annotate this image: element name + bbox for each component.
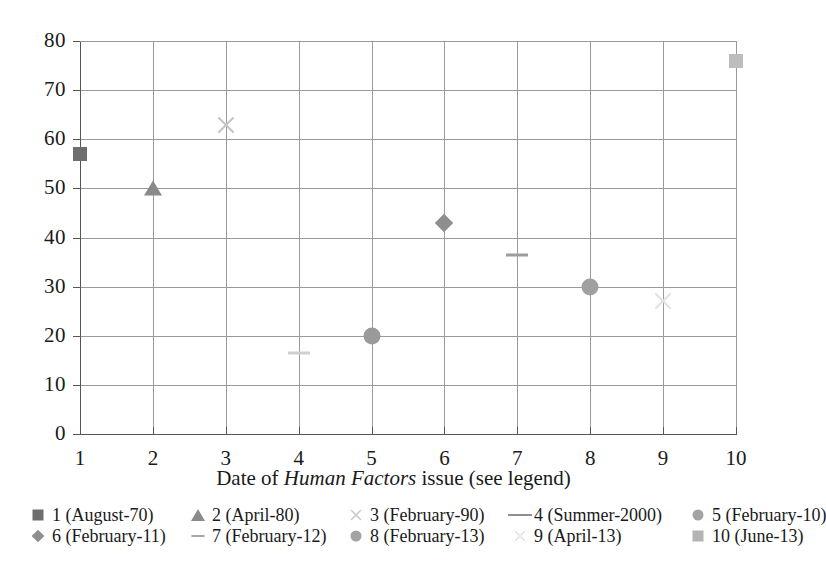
gridline-horizontal	[80, 90, 736, 91]
legend-label: 10 (June-13)	[712, 527, 803, 545]
legend-swatch	[510, 506, 530, 524]
legend-swatch	[346, 506, 366, 524]
y-tick-label: 10	[0, 374, 66, 395]
data-point-square	[729, 54, 743, 68]
x-tick-mark	[663, 427, 664, 434]
legend-row: 1 (August-70)2 (April-80)3 (February-90)…	[28, 504, 768, 525]
y-tick-label: 80	[0, 30, 66, 51]
gridline-vertical	[299, 41, 300, 434]
legend-label: 2 (April-80)	[212, 506, 299, 524]
y-tick-label: 50	[0, 177, 66, 198]
y-tick-label: 30	[0, 276, 66, 297]
x-tick-mark	[517, 427, 518, 434]
legend-item[interactable]: 10 (June-13)	[688, 525, 803, 546]
legend-marker-cross	[349, 508, 363, 522]
plot-border-right	[736, 41, 737, 434]
x-axis-title: Date of Human Factors issue (see legend)	[0, 466, 787, 490]
x-tick-mark	[444, 427, 445, 434]
plot-border-top	[80, 41, 737, 42]
y-tick-label: 60	[0, 128, 66, 149]
legend-item[interactable]: 5 (February-10)	[688, 504, 826, 525]
legend-item[interactable]: 2 (April-80)	[188, 504, 299, 525]
y-tick-label: 40	[0, 227, 66, 248]
data-point-triangle	[144, 181, 162, 196]
x-axis-title-emphasis: Human Factors	[284, 466, 416, 490]
gridline-vertical	[226, 41, 227, 434]
legend-swatch	[688, 527, 708, 545]
legend-label: 5 (February-10)	[712, 506, 826, 524]
gridline-horizontal	[80, 336, 736, 337]
y-tick-mark	[73, 139, 80, 140]
legend-item[interactable]: 7 (February-12)	[188, 525, 326, 546]
legend-marker-dash	[508, 514, 532, 516]
legend-swatch	[28, 506, 48, 524]
legend-label: 4 (Summer-2000)	[534, 506, 662, 524]
y-tick-mark	[73, 385, 80, 386]
legend-marker-square	[693, 530, 704, 541]
y-tick-mark	[73, 287, 80, 288]
legend-label: 1 (August-70)	[52, 506, 154, 524]
data-point-dash	[506, 253, 528, 256]
x-axis-title-text: issue (see legend)	[416, 466, 571, 490]
legend-swatch	[510, 527, 530, 545]
chart-legend: 1 (August-70)2 (April-80)3 (February-90)…	[28, 504, 768, 546]
x-axis-line	[80, 434, 737, 435]
legend-label: 3 (February-90)	[370, 506, 484, 524]
x-tick-mark	[226, 427, 227, 434]
data-point-cross	[653, 291, 673, 311]
legend-item[interactable]: 6 (February-11)	[28, 525, 166, 546]
y-tick-mark	[73, 434, 80, 435]
legend-item[interactable]: 9 (April-13)	[510, 525, 621, 546]
legend-row: 6 (February-11)7 (February-12)8 (Februar…	[28, 525, 768, 546]
gridline-horizontal	[80, 139, 736, 140]
legend-marker-diamond	[32, 529, 45, 542]
legend-label: 9 (April-13)	[534, 527, 621, 545]
gridline-vertical	[153, 41, 154, 434]
data-point-cross	[216, 115, 236, 135]
gridline-horizontal	[80, 188, 736, 189]
gridline-vertical	[517, 41, 518, 434]
data-point-square	[73, 147, 87, 161]
x-tick-mark	[372, 427, 373, 434]
data-point-circle	[582, 278, 599, 295]
legend-marker-circle	[351, 530, 362, 541]
x-tick-mark	[153, 427, 154, 434]
legend-marker-cross	[513, 529, 527, 543]
gridline-vertical	[663, 41, 664, 434]
x-tick-mark	[590, 427, 591, 434]
legend-swatch	[28, 527, 48, 545]
gridline-horizontal	[80, 238, 736, 239]
legend-marker-triangle	[191, 509, 205, 521]
x-axis-title-text: Date of	[216, 466, 284, 490]
legend-swatch	[188, 527, 208, 545]
x-tick-mark	[736, 427, 737, 434]
plot-area	[80, 41, 736, 434]
gridline-vertical	[590, 41, 591, 434]
y-tick-label: 0	[0, 423, 66, 444]
data-point-circle	[363, 327, 380, 344]
x-tick-mark	[299, 427, 300, 434]
legend-item[interactable]: 1 (August-70)	[28, 504, 154, 525]
y-tick-mark	[73, 238, 80, 239]
legend-marker-circle	[693, 509, 704, 520]
gridline-vertical	[372, 41, 373, 434]
legend-item[interactable]: 3 (February-90)	[346, 504, 484, 525]
y-tick-label: 20	[0, 325, 66, 346]
legend-label: 7 (February-12)	[212, 527, 326, 545]
legend-marker-square	[33, 509, 44, 520]
legend-label: 6 (February-11)	[52, 527, 166, 545]
legend-item[interactable]: 4 (Summer-2000)	[510, 504, 662, 525]
legend-label: 8 (February-13)	[370, 527, 484, 545]
gridline-horizontal	[80, 385, 736, 386]
y-axis-line	[80, 41, 81, 434]
data-point-dash	[288, 351, 310, 354]
x-tick-mark	[80, 427, 81, 434]
legend-swatch	[188, 506, 208, 524]
y-tick-mark	[73, 41, 80, 42]
y-tick-mark	[73, 90, 80, 91]
legend-item[interactable]: 8 (February-13)	[346, 525, 484, 546]
gridline-vertical	[444, 41, 445, 434]
legend-swatch	[346, 527, 366, 545]
legend-swatch	[688, 506, 708, 524]
